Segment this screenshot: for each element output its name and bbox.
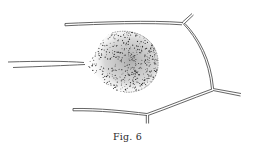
bottom-cell-wall: [73, 89, 213, 124]
figure-caption: Fig. 6: [0, 131, 255, 142]
stippled-sphere: [85, 28, 160, 95]
top-cell-wall: [65, 14, 194, 26]
right-cell-wall: [183, 24, 241, 97]
left-stalk-wall: [8, 61, 85, 67]
